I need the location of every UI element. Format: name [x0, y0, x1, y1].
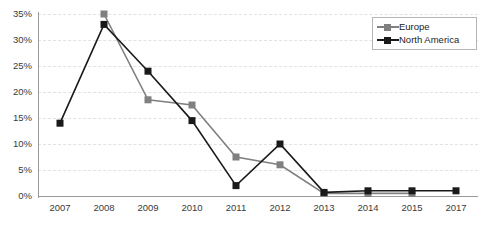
legend-label-europe: Europe	[399, 21, 430, 32]
legend-item-europe[interactable]: Europe	[373, 20, 476, 33]
data-point-north-america	[277, 141, 284, 148]
data-point-north-america	[365, 187, 372, 194]
data-point-north-america	[189, 117, 196, 124]
data-point-north-america	[101, 21, 108, 28]
data-point-north-america	[233, 182, 240, 189]
data-point-europe	[189, 102, 196, 109]
line-chart: 0%5%10%15%20%25%30%35% 20072008200920102…	[0, 0, 486, 227]
legend-swatch-north-america	[377, 34, 399, 45]
data-point-europe	[145, 96, 152, 103]
data-point-north-america	[409, 187, 416, 194]
series-line-europe	[104, 14, 412, 193]
data-point-north-america	[57, 120, 64, 127]
data-point-europe	[277, 161, 284, 168]
data-point-europe	[233, 154, 240, 161]
data-point-north-america	[321, 189, 328, 196]
legend-swatch-europe	[377, 21, 399, 32]
legend-item-north-america[interactable]: North America	[373, 33, 476, 46]
data-point-north-america	[453, 187, 460, 194]
legend: Europe North America	[372, 17, 477, 50]
legend-label-north-america: North America	[399, 34, 459, 45]
data-point-north-america	[145, 68, 152, 75]
series-europe	[101, 11, 416, 197]
data-point-europe	[101, 11, 108, 18]
